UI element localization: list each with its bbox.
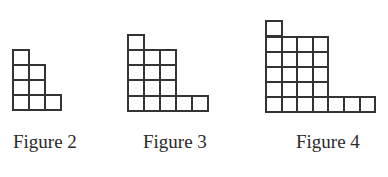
figure-label: Figure 4 bbox=[296, 132, 360, 151]
square-cell bbox=[312, 66, 330, 83]
square-cell bbox=[312, 36, 330, 53]
figure-label: Figure 3 bbox=[143, 132, 207, 151]
square-cell bbox=[359, 96, 377, 113]
square-cell bbox=[191, 95, 209, 112]
square-cell bbox=[159, 64, 177, 81]
square-cell bbox=[28, 64, 46, 81]
square-cell bbox=[159, 49, 177, 66]
square-cell bbox=[312, 51, 330, 68]
square-cell bbox=[44, 94, 62, 111]
figure-label: Figure 2 bbox=[13, 132, 77, 151]
